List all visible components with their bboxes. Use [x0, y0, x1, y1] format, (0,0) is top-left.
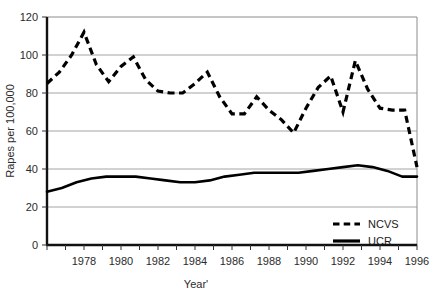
legend-label-ncvs: NCVS	[368, 218, 399, 230]
y-axis-title: Rapes per 100,000	[4, 84, 16, 178]
chart-background	[0, 0, 438, 297]
legend-label-ucr: UCR	[368, 235, 392, 247]
x-tick-label: 1990	[294, 255, 318, 267]
x-tick-label: 1978	[72, 255, 96, 267]
x-tick-label: 1986	[220, 255, 244, 267]
x-tick-label: 1994	[368, 255, 392, 267]
y-tick-label: 20	[26, 201, 38, 213]
y-tick-label: 120	[20, 11, 38, 23]
x-tick-label: 1988	[257, 255, 281, 267]
line-chart: 020406080100120 197819801982198419861988…	[0, 0, 438, 297]
y-tick-label: 60	[26, 125, 38, 137]
x-tick-label: 1980	[109, 255, 133, 267]
y-tick-label: 100	[20, 49, 38, 61]
x-tick-label: 1992	[331, 255, 355, 267]
y-tick-label: 80	[26, 87, 38, 99]
x-tick-label: 1984	[183, 255, 207, 267]
y-tick-label: 0	[32, 239, 38, 251]
chart-figure: 020406080100120 197819801982198419861988…	[0, 0, 438, 297]
x-tick-label: 1982	[146, 255, 170, 267]
x-axis-title: Year'	[184, 278, 208, 290]
y-tick-label: 40	[26, 163, 38, 175]
x-tick-label: 1996	[405, 255, 429, 267]
